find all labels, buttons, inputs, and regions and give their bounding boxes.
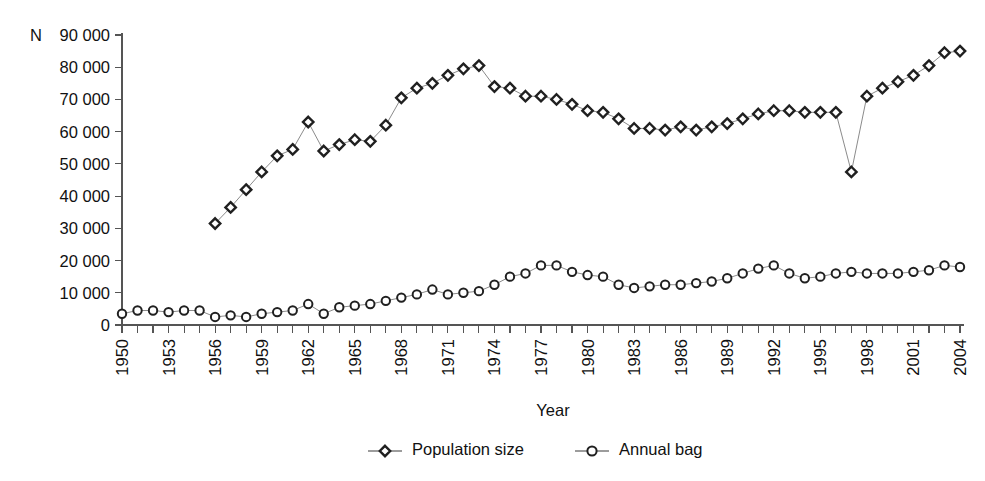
data-point-marker — [722, 118, 732, 128]
x-tick-label: 1950 — [113, 339, 131, 376]
data-point-marker — [691, 125, 701, 135]
data-point-marker — [816, 272, 824, 280]
data-point-marker — [552, 261, 560, 269]
data-point-marker — [862, 91, 872, 101]
data-point-marker — [754, 264, 762, 272]
data-point-marker — [506, 272, 514, 280]
y-tick-label: 90 000 — [60, 26, 110, 44]
legend-entry-population-size: Population size — [368, 440, 524, 458]
data-point-marker — [582, 106, 592, 116]
data-point-marker — [877, 83, 887, 93]
data-point-marker — [257, 310, 265, 318]
legend-entry-annual-bag: Annual bag — [575, 440, 703, 458]
data-point-marker — [413, 290, 421, 298]
data-point-marker — [335, 303, 343, 311]
data-point-marker — [645, 282, 653, 290]
data-point-marker — [613, 114, 623, 124]
data-point-marker — [226, 311, 234, 319]
data-point-marker — [909, 268, 917, 276]
x-tick-label: 1992 — [765, 339, 783, 376]
data-point-marker — [474, 60, 484, 70]
y-tick-label: 0 — [101, 316, 110, 334]
data-point-marker — [319, 146, 329, 156]
data-point-marker — [288, 144, 298, 154]
x-tick-label: 2004 — [951, 339, 969, 376]
data-point-marker — [195, 306, 203, 314]
data-point-marker — [660, 125, 670, 135]
x-tick-label: 1995 — [811, 339, 829, 376]
legend-marker-circle-icon — [587, 446, 596, 455]
data-point-marker — [490, 281, 498, 289]
data-point-marker — [753, 109, 763, 119]
data-point-marker — [366, 300, 374, 308]
data-point-marker — [149, 306, 157, 314]
x-tick-label: 1971 — [439, 339, 457, 376]
data-point-marker — [551, 94, 561, 104]
series-annual-bag — [118, 261, 964, 321]
data-point-marker — [334, 139, 344, 149]
data-point-marker — [644, 123, 654, 133]
y-tick-label: 30 000 — [60, 219, 110, 237]
y-tick-label: 50 000 — [60, 155, 110, 173]
legend-label: Population size — [412, 440, 524, 458]
data-point-marker — [863, 269, 871, 277]
x-tick-label: 1959 — [253, 339, 271, 376]
line-chart: 010 00020 00030 00040 00050 00060 00070 … — [0, 0, 985, 481]
x-tick-label: 1977 — [532, 339, 550, 376]
data-point-marker — [846, 167, 856, 177]
x-tick-label: 1968 — [392, 339, 410, 376]
x-tick-label: 1953 — [160, 339, 178, 376]
x-tick-label: 1989 — [718, 339, 736, 376]
y-tick-label: 60 000 — [60, 123, 110, 141]
data-point-marker — [831, 107, 841, 117]
legend-label: Annual bag — [619, 440, 703, 458]
data-point-marker — [427, 78, 437, 88]
data-point-marker — [676, 281, 684, 289]
data-point-marker — [350, 135, 360, 145]
data-point-marker — [273, 308, 281, 316]
chart-figure: 010 00020 00030 00040 00050 00060 00070 … — [0, 0, 985, 481]
data-point-marker — [614, 281, 622, 289]
data-point-marker — [598, 107, 608, 117]
data-point-marker — [832, 269, 840, 277]
data-point-marker — [521, 269, 529, 277]
data-point-marker — [784, 106, 794, 116]
data-point-marker — [351, 301, 359, 309]
data-point-marker — [785, 269, 793, 277]
data-point-marker — [444, 290, 452, 298]
data-point-marker — [723, 274, 731, 282]
x-tick-label: 1962 — [299, 339, 317, 376]
y-axis-name: N — [30, 26, 42, 44]
data-point-marker — [289, 306, 297, 314]
data-point-marker — [738, 114, 748, 124]
x-tick-label: 1986 — [672, 339, 690, 376]
data-point-marker — [769, 106, 779, 116]
data-point-marker — [770, 261, 778, 269]
y-tick-label: 80 000 — [60, 58, 110, 76]
data-point-marker — [847, 268, 855, 276]
data-point-marker — [878, 269, 886, 277]
x-tick-label: 2001 — [904, 339, 922, 376]
data-point-marker — [320, 310, 328, 318]
data-point-marker — [304, 300, 312, 308]
data-point-marker — [629, 123, 639, 133]
data-point-marker — [520, 91, 530, 101]
data-point-marker — [675, 122, 685, 132]
data-point-marker — [443, 70, 453, 80]
data-point-marker — [708, 277, 716, 285]
x-tick-label: 1998 — [858, 339, 876, 376]
data-point-marker — [707, 122, 717, 132]
data-point-marker — [164, 308, 172, 316]
data-point-marker — [599, 272, 607, 280]
data-point-marker — [428, 285, 436, 293]
x-tick-label: 1980 — [579, 339, 597, 376]
data-point-marker — [630, 284, 638, 292]
data-point-marker — [489, 81, 499, 91]
data-point-marker — [894, 269, 902, 277]
data-point-marker — [211, 313, 219, 321]
y-tick-label: 10 000 — [60, 284, 110, 302]
data-point-marker — [955, 46, 965, 56]
y-tick-label: 70 000 — [60, 90, 110, 108]
data-point-marker — [583, 271, 591, 279]
data-point-marker — [412, 83, 422, 93]
